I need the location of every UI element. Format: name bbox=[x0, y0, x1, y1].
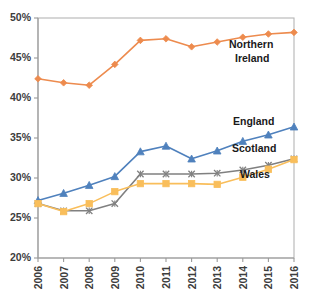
x-axis-tick-label: 2008 bbox=[83, 266, 95, 290]
data-point-marker bbox=[60, 208, 66, 214]
y-axis-ticks bbox=[34, 18, 38, 258]
data-point-marker bbox=[214, 39, 221, 46]
data-point-marker bbox=[188, 180, 194, 186]
data-point-marker bbox=[291, 29, 298, 36]
series-label-wales: Wales bbox=[240, 168, 270, 180]
data-point-marker bbox=[163, 180, 169, 186]
x-axis-tick-label: 2013 bbox=[211, 266, 223, 290]
data-point-marker bbox=[290, 123, 298, 130]
line-chart: 50%45%40%35%30%25%20% 200620072008200920… bbox=[0, 0, 311, 300]
x-axis-ticks bbox=[38, 258, 294, 262]
chart-container: 50%45%40%35%30%25%20% 200620072008200920… bbox=[0, 0, 311, 300]
series-label-england: England bbox=[233, 115, 274, 127]
x-axis-tick-label: 2014 bbox=[237, 266, 249, 290]
data-point-marker bbox=[265, 31, 272, 38]
y-axis-tick-label: 35% bbox=[10, 131, 32, 143]
y-axis-tick-label: 20% bbox=[10, 251, 32, 263]
data-point-marker bbox=[137, 180, 143, 186]
series-label-ireland: Ireland bbox=[235, 52, 269, 64]
data-point-marker bbox=[291, 156, 297, 162]
y-axis-tick-label: 25% bbox=[10, 211, 32, 223]
series-label-scotland: Scotland bbox=[232, 142, 276, 154]
x-axis-tick-label: 2010 bbox=[134, 266, 146, 290]
data-point-marker bbox=[35, 200, 41, 206]
data-point-marker bbox=[112, 188, 118, 194]
series-inline-labels: NorthernIrelandEnglandScotlandWales bbox=[229, 38, 276, 180]
y-axis-labels: 50%45%40%35%30%25%20% bbox=[10, 11, 32, 263]
series-england bbox=[34, 123, 298, 204]
x-axis-labels: 2006200720082009201020112012201320142015… bbox=[32, 266, 300, 290]
data-point-marker bbox=[60, 80, 67, 87]
data-point-marker bbox=[162, 142, 170, 149]
data-point-marker bbox=[35, 76, 42, 83]
y-axis-tick-label: 50% bbox=[10, 11, 32, 23]
data-point-marker bbox=[86, 200, 92, 206]
series-wales bbox=[35, 156, 297, 214]
y-axis-tick-label: 30% bbox=[10, 171, 32, 183]
x-axis-tick-label: 2012 bbox=[186, 266, 198, 290]
y-axis-tick-label: 45% bbox=[10, 51, 32, 63]
series-label-northern: Northern bbox=[229, 38, 273, 50]
x-axis-tick-label: 2006 bbox=[32, 266, 44, 290]
x-axis-tick-label: 2015 bbox=[262, 266, 274, 290]
data-point-marker bbox=[188, 44, 195, 51]
y-axis-tick-label: 40% bbox=[10, 91, 32, 103]
series-line bbox=[38, 127, 294, 201]
x-axis-tick-label: 2016 bbox=[288, 266, 300, 290]
x-axis-tick-label: 2011 bbox=[160, 266, 172, 289]
data-point-marker bbox=[163, 36, 170, 43]
x-axis-tick-label: 2007 bbox=[58, 266, 70, 290]
data-point-marker bbox=[214, 181, 220, 187]
x-axis-tick-label: 2009 bbox=[109, 266, 121, 290]
